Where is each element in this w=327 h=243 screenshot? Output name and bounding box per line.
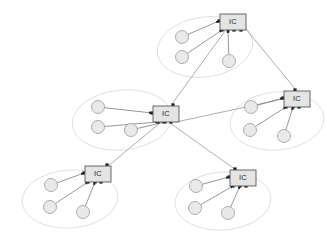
cluster-node-bottom-right-cluster-0[interactable]	[190, 180, 203, 193]
network-diagram: ICICICICIC	[0, 0, 327, 243]
node-to-ic-link-top-cluster-2	[228, 30, 229, 55]
node-to-ic-link-bottom-left-cluster-0	[57, 173, 84, 183]
cluster-boundary-right-cluster	[228, 88, 327, 154]
cluster-node-top-cluster-1[interactable]	[176, 51, 189, 64]
node-layer	[44, 31, 291, 220]
cluster-node-bottom-left-cluster-1[interactable]	[44, 201, 57, 214]
ic-box-label-top-cluster: IC	[229, 17, 237, 26]
ic-box-label-bottom-right-cluster: IC	[239, 173, 247, 182]
node-to-ic-link-right-cluster-2	[286, 107, 293, 130]
ic-port-layer	[82, 19, 300, 187]
cluster-node-top-cluster-0[interactable]	[176, 31, 189, 44]
ic-box-left-cluster[interactable]: IC	[153, 106, 179, 122]
node-to-ic-link-right-cluster-0	[257, 98, 283, 105]
cluster-node-top-cluster-2[interactable]	[223, 55, 236, 68]
ic-box-label-left-cluster: IC	[162, 109, 170, 118]
ic-box-label-bottom-left-cluster: IC	[94, 169, 102, 178]
cluster-node-right-cluster-2[interactable]	[278, 130, 291, 143]
ic-box-bottom-left-cluster[interactable]: IC	[85, 166, 111, 182]
link-center-to-bottom-right	[170, 123, 236, 170]
cluster-node-bottom-right-cluster-2[interactable]	[222, 207, 235, 220]
ic-box-bottom-right-cluster[interactable]: IC	[230, 170, 256, 186]
node-to-ic-link-bottom-left-cluster-2	[85, 182, 95, 206]
node-to-ic-link-bottom-right-cluster-1	[201, 186, 233, 205]
node-to-ic-link-bottom-right-cluster-0	[202, 177, 229, 184]
cluster-node-right-cluster-1[interactable]	[244, 124, 257, 137]
node-to-ic-link-right-cluster-1	[255, 107, 286, 127]
diagram-canvas: ICICICICIC	[0, 0, 327, 243]
node-to-ic-link-bottom-left-cluster-1	[55, 182, 88, 203]
cluster-node-left-cluster-1[interactable]	[92, 121, 105, 134]
link-top-to-right	[246, 29, 296, 90]
cluster-node-bottom-right-cluster-1[interactable]	[189, 202, 202, 215]
cluster-node-bottom-left-cluster-2[interactable]	[77, 206, 90, 219]
node-to-ic-link-top-cluster-0	[188, 21, 219, 34]
inter-cluster-link-layer	[108, 29, 296, 170]
ic-box-right-cluster[interactable]: IC	[284, 91, 310, 107]
ic-box-top-cluster[interactable]: IC	[220, 14, 246, 30]
node-to-ic-link-top-cluster-1	[187, 30, 222, 53]
ic-box-label-right-cluster: IC	[293, 94, 301, 103]
cluster-node-left-cluster-0[interactable]	[92, 101, 105, 114]
node-to-ic-link-left-cluster-2	[137, 122, 165, 129]
node-to-ic-link-left-cluster-0	[104, 108, 152, 113]
node-to-ic-link-bottom-right-cluster-2	[231, 186, 240, 207]
cluster-node-bottom-left-cluster-0[interactable]	[45, 179, 58, 192]
cluster-node-right-cluster-0[interactable]	[245, 101, 258, 114]
cluster-node-left-cluster-2[interactable]	[125, 124, 138, 137]
